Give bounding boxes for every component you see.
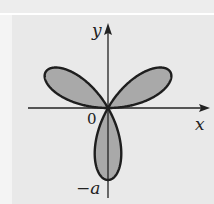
x-axis-label: x bbox=[195, 114, 205, 134]
rose-curve-diagram bbox=[0, 0, 214, 204]
origin-label: 0 bbox=[87, 110, 97, 128]
y-axis-label: y bbox=[92, 20, 102, 40]
neg-a-label: −a bbox=[76, 178, 100, 198]
